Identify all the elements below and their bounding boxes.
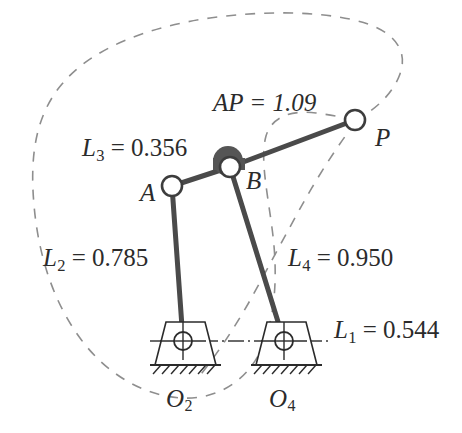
label-l4-symbol: L [288, 244, 302, 271]
link-l2-crank [172, 186, 183, 341]
label-pivot-o4-sub: 4 [287, 397, 295, 414]
link-ap-coupler-extension [230, 120, 355, 167]
ground-hatch-o2 [153, 365, 215, 374]
label-l4-eq: = [310, 244, 337, 271]
label-l2: L2 = 0.785 [43, 245, 148, 274]
label-point-p: P [375, 125, 390, 150]
joint-p-circle [345, 110, 365, 130]
label-l1-symbol: L [334, 316, 348, 343]
joint-a-circle [162, 176, 182, 196]
label-point-b: B [246, 168, 261, 193]
label-ap: AP = 1.09 [213, 90, 316, 115]
label-l2-value: 0.785 [92, 244, 148, 271]
label-l4-value: 0.950 [337, 244, 393, 271]
label-pivot-o4: O4 [269, 386, 295, 414]
label-pivot-o2-symbol: O [166, 385, 184, 412]
label-pivot-o4-symbol: O [269, 385, 287, 412]
label-point-a-text: A [140, 179, 155, 206]
label-l3-value: 0.356 [131, 134, 187, 161]
linkage-drawing [0, 0, 462, 433]
ground-support-o2 [150, 322, 221, 374]
label-l3: L3 = 0.356 [82, 135, 187, 164]
label-pivot-o2-sub: 2 [184, 397, 192, 414]
label-l1-eq: = [356, 316, 383, 343]
label-ap-text: AP = 1.09 [213, 89, 316, 116]
label-point-b-text: B [246, 167, 261, 194]
joint-b-circle [220, 157, 240, 177]
label-point-a: A [140, 180, 155, 205]
ground-support-o4 [251, 322, 322, 374]
links-group [172, 120, 355, 341]
linkage-figure: AP = 1.09 L3 = 0.356 L2 = 0.785 L4 = 0.9… [0, 0, 462, 433]
label-l3-eq: = [104, 134, 131, 161]
label-l4: L4 = 0.950 [288, 245, 393, 274]
label-point-p-text: P [375, 124, 390, 151]
ground-hatch-o4 [254, 365, 316, 374]
label-pivot-o2: O2 [166, 386, 192, 414]
label-l3-symbol: L [82, 134, 96, 161]
label-l2-symbol: L [43, 244, 57, 271]
label-l1-value: 0.544 [383, 316, 439, 343]
label-l2-eq: = [65, 244, 92, 271]
label-l1: L1 = 0.544 [334, 317, 439, 346]
